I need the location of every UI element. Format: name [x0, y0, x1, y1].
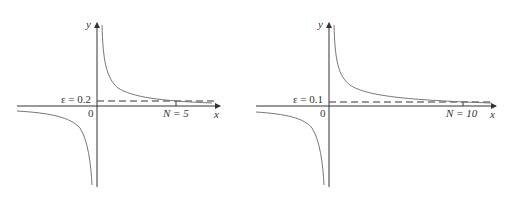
n-label: N = 5 — [163, 108, 189, 119]
hyperbola-plot — [0, 0, 256, 203]
epsilon-label: ε = 0.2 — [61, 94, 91, 105]
origin-label: 0 — [320, 108, 326, 119]
curve-negative-branch — [17, 111, 92, 185]
curve-positive-branch — [102, 25, 212, 103]
origin-label: 0 — [88, 108, 94, 119]
x-axis-label: x — [214, 109, 219, 120]
x-axis-label: x — [490, 109, 495, 120]
curve-negative-branch — [256, 112, 324, 185]
epsilon-label: ε = 0.1 — [293, 94, 323, 105]
y-axis-label: y — [318, 19, 323, 30]
figure-epsilon-0-1: y x ε = 0.1 0 N = 10 — [256, 0, 512, 203]
figure-epsilon-0-2: y x ε = 0.2 0 N = 5 — [0, 0, 256, 203]
n-label: N = 10 — [446, 108, 477, 119]
y-axis-label: y — [86, 19, 91, 30]
curve-positive-branch — [334, 25, 491, 103]
